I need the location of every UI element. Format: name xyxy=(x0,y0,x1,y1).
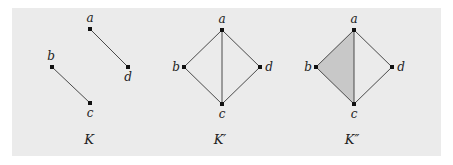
vertex-b xyxy=(314,65,318,69)
vertex-c xyxy=(352,102,356,106)
vertex-b xyxy=(50,65,54,69)
simplicial-complexes-diagram: adbcKabdcK′abdcK″ xyxy=(0,0,453,165)
face-abc xyxy=(316,30,354,104)
vertex-d xyxy=(390,65,394,69)
vertex-a xyxy=(352,28,356,32)
edge-ad xyxy=(222,30,260,67)
vertex-label-c: c xyxy=(87,106,94,120)
vertex-label-d: d xyxy=(124,70,132,84)
vertex-label-b: b xyxy=(304,60,312,74)
vertex-c xyxy=(88,101,92,105)
vertex-label-b: b xyxy=(47,49,55,63)
caption-K-prime: K′ xyxy=(213,132,227,147)
edge-ad xyxy=(354,30,392,67)
complex-K-prime: abdcK′ xyxy=(172,12,273,147)
vertex-label-d: d xyxy=(265,60,273,74)
complex-K: adbcK xyxy=(47,11,132,147)
vertex-a xyxy=(88,27,92,31)
vertex-label-a: a xyxy=(218,12,225,26)
vertex-label-d: d xyxy=(397,60,405,74)
vertex-label-c: c xyxy=(219,107,226,121)
complex-K-double-prime: abdcK″ xyxy=(304,12,405,147)
vertex-label-c: c xyxy=(351,107,358,121)
vertex-label-b: b xyxy=(172,60,180,74)
vertex-label-a: a xyxy=(350,12,357,26)
vertex-b xyxy=(182,65,186,69)
caption-K-double-prime: K″ xyxy=(344,132,360,147)
vertex-d xyxy=(258,65,262,69)
edge-bc xyxy=(52,67,90,103)
edge-bc xyxy=(184,67,222,104)
edge-cd xyxy=(354,67,392,104)
edge-cd xyxy=(222,67,260,104)
edge-ad xyxy=(90,29,128,67)
vertex-c xyxy=(220,102,224,106)
vertex-label-a: a xyxy=(86,11,93,25)
vertex-a xyxy=(220,28,224,32)
vertex-d xyxy=(126,65,130,69)
caption-K: K xyxy=(83,132,95,147)
edge-ab xyxy=(184,30,222,67)
